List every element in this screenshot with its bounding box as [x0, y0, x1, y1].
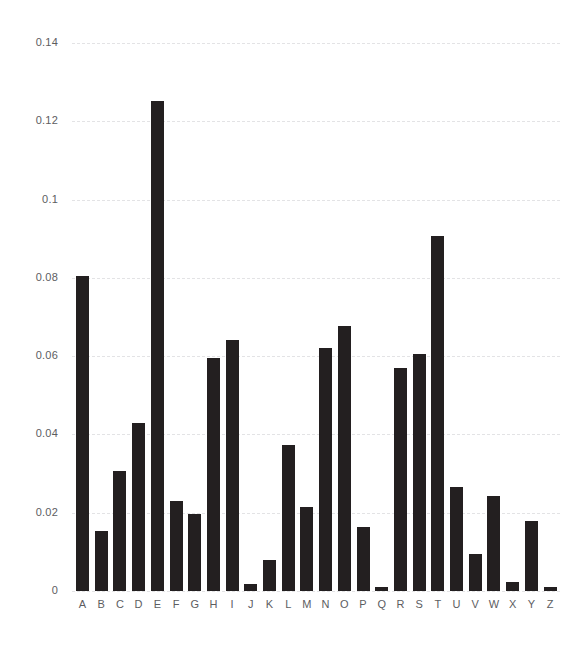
y-axis-tick-label: 0.02 — [36, 507, 58, 518]
bar-d[interactable] — [132, 423, 145, 591]
y-axis-tick-label: 0.06 — [36, 350, 58, 361]
x-axis-tick-label-q: Q — [375, 598, 388, 611]
bar-l[interactable] — [282, 445, 295, 591]
bars-layer — [72, 43, 560, 591]
x-axis-tick-label-b: B — [95, 598, 108, 611]
x-axis-tick-label-k: K — [263, 598, 276, 611]
bar-chart: 00.020.040.060.080.10.120.14 ABCDEFGHIJK… — [0, 0, 587, 647]
bar-q[interactable] — [375, 587, 388, 591]
bar-g[interactable] — [188, 514, 201, 591]
bar-n[interactable] — [319, 348, 332, 591]
x-axis-tick-label-e: E — [151, 598, 164, 611]
x-axis-tick-label-w: W — [487, 598, 500, 611]
x-axis-tick-label-t: T — [431, 598, 444, 611]
bar-s[interactable] — [413, 354, 426, 591]
y-axis-tick-label: 0.14 — [36, 37, 58, 48]
y-axis-tick-label: 0 — [52, 585, 58, 596]
bar-f[interactable] — [170, 501, 183, 591]
x-axis-tick-label-i: I — [226, 598, 239, 611]
bar-t[interactable] — [431, 236, 444, 591]
bar-y[interactable] — [525, 521, 538, 591]
x-axis-tick-label-y: Y — [525, 598, 538, 611]
y-axis-tick-label: 0.12 — [36, 115, 58, 126]
bar-v[interactable] — [469, 554, 482, 591]
bar-i[interactable] — [226, 340, 239, 591]
x-axis-tick-label-f: F — [170, 598, 183, 611]
bar-z[interactable] — [544, 587, 557, 591]
y-axis: 00.020.040.060.080.10.120.14 — [0, 43, 58, 591]
bar-j[interactable] — [244, 584, 257, 591]
x-axis-tick-label-u: U — [450, 598, 463, 611]
x-axis-tick-label-n: N — [319, 598, 332, 611]
x-axis: ABCDEFGHIJKLMNOPQRSTUVWXYZ — [72, 598, 560, 622]
y-axis-tick-label: 0.08 — [36, 272, 58, 283]
y-axis-tick-label: 0.04 — [36, 428, 58, 439]
x-axis-tick-label-v: V — [469, 598, 482, 611]
y-axis-tick-label: 0.1 — [42, 194, 58, 205]
x-axis-tick-label-g: G — [188, 598, 201, 611]
x-axis-tick-label-j: J — [244, 598, 257, 611]
x-axis-tick-label-l: L — [282, 598, 295, 611]
gridline — [72, 591, 560, 592]
bar-h[interactable] — [207, 358, 220, 591]
x-axis-tick-label-r: R — [394, 598, 407, 611]
x-axis-tick-label-m: M — [300, 598, 313, 611]
bar-b[interactable] — [95, 531, 108, 591]
bar-w[interactable] — [487, 496, 500, 591]
bar-m[interactable] — [300, 507, 313, 591]
x-axis-tick-label-p: P — [357, 598, 370, 611]
x-axis-tick-label-d: D — [132, 598, 145, 611]
x-axis-tick-label-h: H — [207, 598, 220, 611]
bar-c[interactable] — [113, 471, 126, 591]
x-axis-tick-label-s: S — [413, 598, 426, 611]
bar-u[interactable] — [450, 487, 463, 591]
x-axis-tick-label-c: C — [113, 598, 126, 611]
bar-k[interactable] — [263, 560, 276, 591]
x-axis-tick-label-o: O — [338, 598, 351, 611]
bar-e[interactable] — [151, 101, 164, 591]
bar-a[interactable] — [76, 276, 89, 591]
x-axis-tick-label-a: A — [76, 598, 89, 611]
plot-area — [72, 43, 560, 591]
x-axis-tick-label-x: X — [506, 598, 519, 611]
x-axis-tick-label-z: Z — [544, 598, 557, 611]
bar-x[interactable] — [506, 582, 519, 591]
bar-p[interactable] — [357, 527, 370, 591]
bar-r[interactable] — [394, 368, 407, 591]
bar-o[interactable] — [338, 326, 351, 591]
